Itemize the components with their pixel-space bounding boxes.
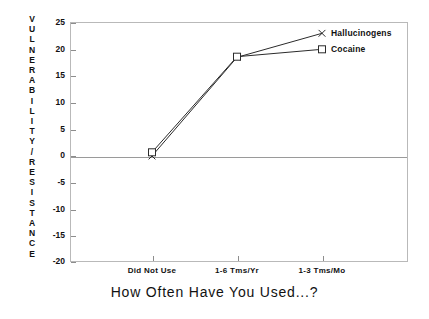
- y-tick-mark: [71, 50, 76, 51]
- series-label-hallucinogens: Hallucinogens: [331, 28, 392, 38]
- x-tick-mark: [323, 256, 324, 261]
- x-tick-mark: [238, 256, 239, 261]
- y-tick-label: 15: [35, 70, 65, 80]
- x-tick-label: Did Not Use: [128, 266, 177, 275]
- y-tick-label: -5: [35, 177, 65, 187]
- y-tick-label: 20: [35, 44, 65, 54]
- y-tick-mark: [71, 262, 76, 263]
- y-tick-mark: [71, 76, 76, 77]
- y-tick-label: -10: [35, 204, 65, 214]
- y-tick-label: 25: [35, 17, 65, 27]
- zero-reference-line: [71, 157, 407, 158]
- y-tick-label: 10: [35, 97, 65, 107]
- x-axis-title: How Often Have You Used...?: [0, 284, 429, 300]
- y-tick-mark: [71, 156, 76, 157]
- x-tick-mark: [153, 256, 154, 261]
- y-tick-mark: [71, 210, 76, 211]
- y-tick-label: 5: [35, 124, 65, 134]
- y-tick-mark: [71, 130, 76, 131]
- y-tick-label: 0: [35, 150, 65, 160]
- y-tick-mark: [71, 23, 76, 24]
- y-tick-mark: [71, 103, 76, 104]
- plot-area: [70, 22, 408, 262]
- y-tick-label: -15: [35, 230, 65, 240]
- x-tick-label: 1-3 Tms/Mo: [298, 266, 345, 275]
- y-tick-mark: [71, 236, 76, 237]
- y-tick-label: -20: [35, 256, 65, 266]
- y-tick-mark: [71, 183, 76, 184]
- series-label-cocaine: Cocaine: [331, 44, 365, 54]
- chart-figure: V U L N E R A B I L I T Y / R E S I S T …: [0, 0, 429, 319]
- x-tick-label: 1-6 Tms/Yr: [215, 266, 259, 275]
